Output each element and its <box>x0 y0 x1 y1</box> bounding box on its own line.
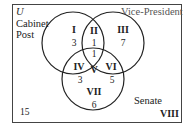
region-VII-label: VII <box>86 86 101 97</box>
region-V-count: 1 <box>92 49 97 59</box>
universe-label: U <box>16 6 25 17</box>
region-IV-count: 3 <box>78 75 83 85</box>
region-II-label: II <box>90 25 98 36</box>
region-VI-count: 5 <box>110 75 115 85</box>
vice-president-label: Vice-President <box>121 6 183 17</box>
cabinet-label-line1: Cabinet <box>16 18 49 29</box>
region-VII-count: 6 <box>92 100 97 110</box>
region-V-label: V <box>90 64 98 75</box>
region-I-label: I <box>72 24 76 35</box>
cabinet-label-line2: Post <box>16 29 34 40</box>
region-VI-label: VI <box>105 61 116 72</box>
region-II-count: 1 <box>92 38 97 48</box>
region-VIII-count: 15 <box>20 107 30 117</box>
senate-label: Senate <box>134 95 162 106</box>
region-III-count: 7 <box>121 38 126 48</box>
region-VIII-label: VIII <box>160 108 179 119</box>
region-III-label: III <box>117 24 129 35</box>
region-IV-label: IV <box>73 61 85 72</box>
region-I-count: 3 <box>72 38 77 48</box>
venn-diagram: U Cabinet Post Vice-President Senate I 3… <box>0 0 194 130</box>
